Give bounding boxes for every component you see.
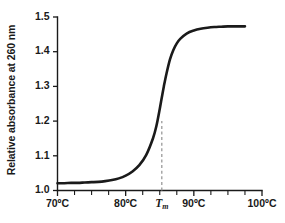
chart-plot-area: 1.01.11.21.31.41.5 70ºC80ºC90ºC100ºC Tm (0, 0, 285, 223)
y-tick-label: 1.0 (35, 183, 50, 195)
x-tick-label: 90ºC (182, 197, 206, 209)
melting-curve-line (58, 26, 245, 183)
y-axis-tick-labels: 1.01.11.21.31.41.5 (35, 10, 50, 196)
melting-curve-figure: Relative absorbance at 260 nm 1.01.11.21… (0, 0, 285, 223)
y-tick-label: 1.4 (35, 44, 50, 56)
y-tick-label: 1.2 (35, 114, 50, 126)
y-tick-label: 1.5 (35, 10, 50, 22)
y-tick-label: 1.3 (35, 79, 50, 91)
x-tick-label: 70ºC (46, 197, 70, 209)
x-tick-label: 80ºC (114, 197, 138, 209)
tm-annotation-label: Tm (155, 197, 168, 212)
y-tick-label: 1.1 (35, 149, 50, 161)
x-tick-label: 100ºC (248, 197, 277, 209)
